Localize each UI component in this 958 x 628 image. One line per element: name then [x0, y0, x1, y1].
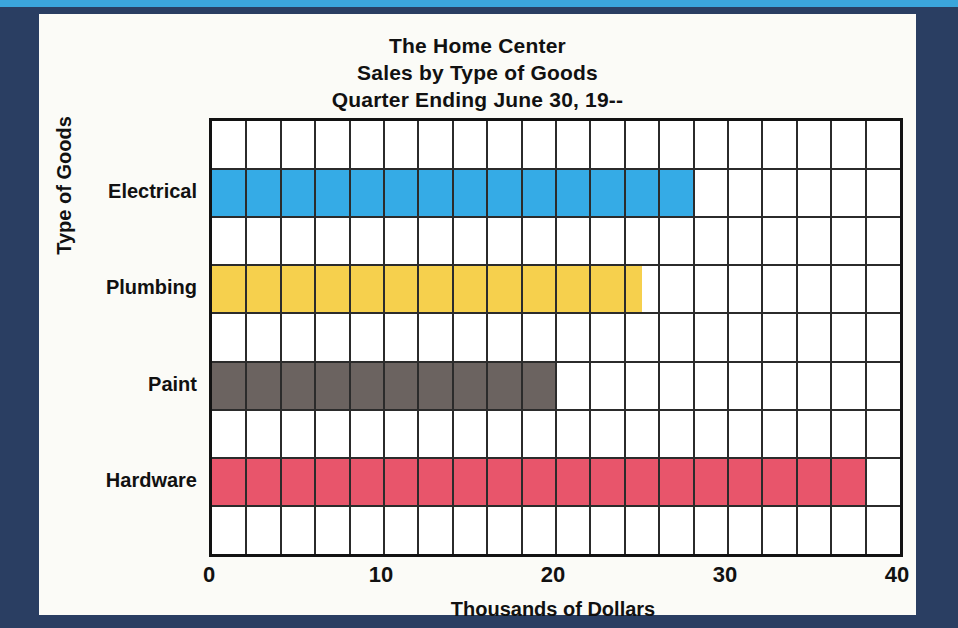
- poster-background: The Home Center Sales by Type of Goods Q…: [0, 0, 958, 628]
- chart-card: The Home Center Sales by Type of Goods Q…: [39, 14, 916, 615]
- x-axis-title: Thousands of Dollars: [209, 598, 897, 621]
- x-tick-label-10: 10: [351, 562, 411, 588]
- x-tick-label-30: 30: [695, 562, 755, 588]
- bar-plumbing: [212, 265, 642, 313]
- bar-series: [212, 121, 900, 554]
- title-line-2: Sales by Type of Goods: [39, 59, 916, 86]
- y-tick-label-hardware: Hardware: [39, 469, 197, 492]
- y-tick-label-paint: Paint: [39, 373, 197, 396]
- x-tick-label-0: 0: [179, 562, 239, 588]
- y-tick-label-plumbing: Plumbing: [39, 276, 197, 299]
- bar-paint: [212, 362, 556, 410]
- bar-hardware: [212, 458, 866, 506]
- chart-title-block: The Home Center Sales by Type of Goods Q…: [39, 32, 916, 113]
- x-tick-label-20: 20: [523, 562, 583, 588]
- title-line-1: The Home Center: [39, 32, 916, 59]
- x-axis-zone: 010203040 Thousands of Dollars: [209, 554, 897, 614]
- title-line-3: Quarter Ending June 30, 19--: [39, 86, 916, 113]
- bar-electrical: [212, 169, 694, 217]
- top-accent-strip: [0, 0, 958, 7]
- plot-area: [209, 118, 903, 557]
- x-tick-label-40: 40: [867, 562, 927, 588]
- y-tick-label-electrical: Electrical: [39, 180, 197, 203]
